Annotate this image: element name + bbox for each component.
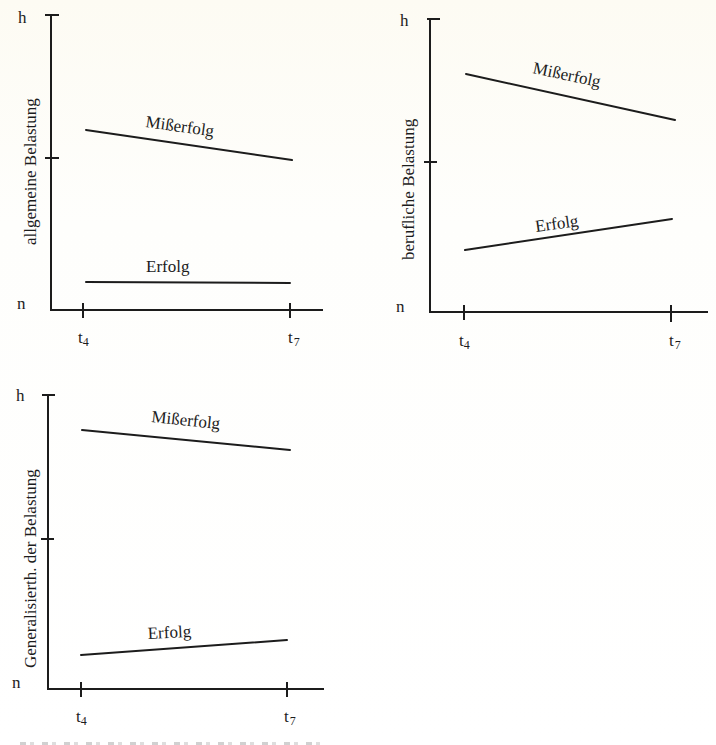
series-label-erfolg: Erfolg	[146, 257, 190, 276]
y-bottom-label: n	[396, 297, 405, 316]
svg-text:t4: t4	[76, 707, 87, 728]
chart-panel-generalisiertheit-der-belastung: h n Generalisierth. der Belastung Mißerf…	[12, 386, 323, 728]
y-bottom-label: n	[17, 294, 26, 313]
series-line-erfolg	[81, 640, 287, 655]
svg-text:t7: t7	[284, 707, 296, 728]
chart-panel-allgemeine-belastung: h n allgemeine Belastung Mißerfolg Erfol…	[17, 8, 322, 349]
series-label-misserfolg: Mißerfolg	[531, 58, 603, 91]
figure-canvas: h n allgemeine Belastung Mißerfolg Erfol…	[0, 0, 716, 745]
x-tick-label-t7: t7	[288, 328, 300, 349]
series-line-misserfolg	[82, 430, 290, 450]
series-label-misserfolg: Mißerfolg	[144, 112, 215, 140]
svg-text:t4: t4	[78, 328, 89, 349]
series-label-erfolg: Erfolg	[534, 211, 580, 236]
series-line-erfolg	[86, 282, 290, 283]
y-top-label: h	[400, 11, 409, 30]
y-bottom-label: n	[12, 673, 21, 692]
axes	[430, 19, 707, 312]
x-tick-label-t4: t4	[78, 328, 89, 349]
svg-text:t7: t7	[669, 331, 681, 352]
cropped-caption	[20, 740, 320, 745]
series-label-erfolg: Erfolg	[147, 622, 192, 643]
svg-text:t7: t7	[288, 328, 300, 349]
y-axis-title: Generalisierth. der Belastung	[21, 469, 40, 668]
x-tick-label-t7: t7	[284, 707, 296, 728]
chart-panel-berufliche-belastung: h n berufliche Belastung Mißerfolg Erfol…	[396, 11, 707, 352]
svg-text:t4: t4	[459, 331, 470, 352]
series-label-misserfolg: Mißerfolg	[151, 407, 222, 433]
y-axis-title: allgemeine Belastung	[21, 98, 40, 245]
x-tick-label-t7: t7	[669, 331, 681, 352]
x-tick-label-t4: t4	[76, 707, 87, 728]
y-top-label: h	[16, 386, 25, 405]
x-tick-label-t4: t4	[459, 331, 470, 352]
y-top-label: h	[18, 8, 27, 27]
y-axis-title: berufliche Belastung	[399, 118, 418, 260]
